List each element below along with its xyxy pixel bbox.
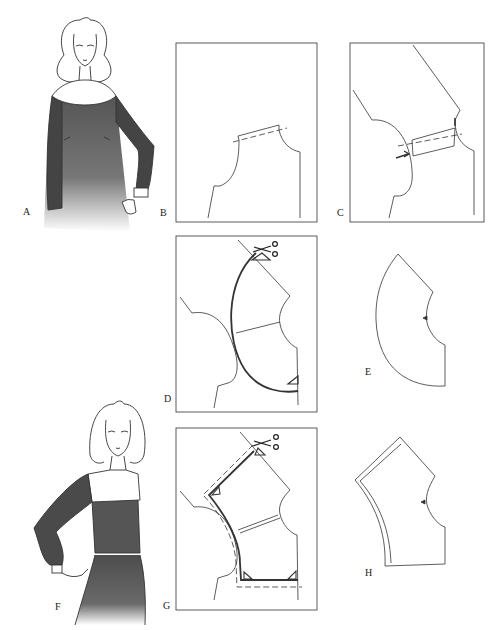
fashion-figure-f <box>34 401 145 625</box>
label-a: A <box>23 206 30 217</box>
panel-b <box>176 43 317 222</box>
label-h: H <box>365 567 372 578</box>
scissors-icon <box>253 435 278 450</box>
panel-g <box>176 428 317 610</box>
label-f: F <box>55 601 61 612</box>
scissors-icon <box>253 242 277 257</box>
label-b: B <box>160 207 167 218</box>
fashion-figure-a <box>44 18 154 232</box>
pattern-diagram <box>0 0 497 630</box>
label-e: E <box>365 366 371 377</box>
panel-d <box>176 236 317 412</box>
panel-e <box>376 254 445 386</box>
label-g: G <box>163 600 170 611</box>
label-d: D <box>164 393 171 404</box>
panel-h <box>355 437 445 566</box>
panel-c <box>350 43 484 222</box>
label-c: C <box>337 207 344 218</box>
